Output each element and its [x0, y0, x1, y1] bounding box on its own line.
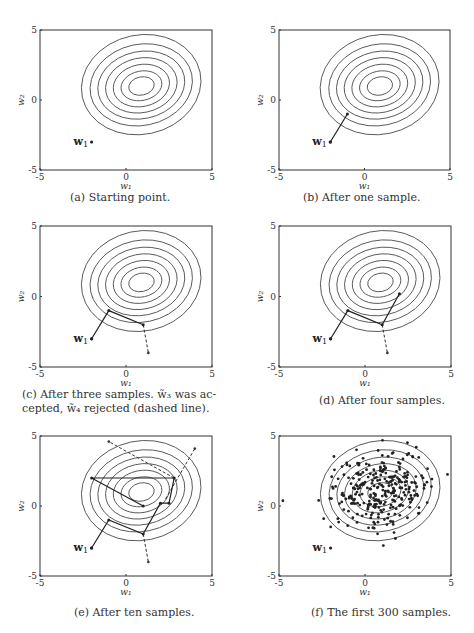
contour-lines — [311, 430, 449, 552]
y-axis-label: w₂ — [16, 500, 26, 512]
y-tick-label: 0 — [31, 95, 37, 105]
plot-f: -505-505w₁w₂w1 — [237, 420, 474, 600]
y-axis-label: w₂ — [255, 500, 265, 512]
x-axis-label: w₁ — [120, 378, 131, 388]
caption-e: (e) After ten samples. — [74, 606, 194, 620]
y-tick-label: 0 — [270, 501, 276, 511]
axes-box — [40, 226, 212, 367]
axes-box — [279, 30, 450, 170]
caption-d: (d) After four samples. — [319, 394, 445, 408]
plot-a: -505-505w₁w₂w1 — [0, 0, 237, 190]
panel-a: -505-505w₁w₂w1 (a) Starting point. — [0, 0, 237, 210]
y-axis-label: w₂ — [255, 290, 265, 302]
plot-b: -505-505w₁w₂w1 — [237, 0, 474, 190]
plot-d: -505-505w₁w₂w1 — [237, 210, 474, 390]
y-tick-label: 0 — [270, 95, 276, 105]
y-tick-label: 5 — [31, 25, 37, 35]
x-axis-label: w₁ — [359, 378, 370, 388]
start-point-label: w1 — [312, 332, 328, 346]
y-tick-label: 5 — [270, 431, 276, 441]
start-point-label: w1 — [312, 541, 328, 555]
plot-c: -505-505w₁w₂w1 — [0, 210, 237, 390]
contour-lines — [72, 24, 210, 146]
y-tick-label: 5 — [270, 25, 276, 35]
y-tick-label: -5 — [267, 165, 276, 175]
caption-c-line2: cepted, w̃₄ rejected (dashed line). — [22, 402, 209, 416]
caption-f: (f) The first 300 samples. — [311, 606, 451, 620]
y-tick-label: -5 — [267, 362, 276, 372]
start-point-label: w1 — [73, 332, 89, 346]
start-point-label: w1 — [73, 135, 89, 149]
contour-lines — [311, 24, 449, 146]
start-point-label: w1 — [311, 135, 327, 149]
axes-box — [279, 436, 451, 576]
rejected-step — [143, 325, 148, 353]
y-tick-label: -5 — [267, 571, 276, 581]
plot-e: -505-505w₁w₂w1 — [0, 420, 237, 600]
y-tick-label: 5 — [31, 221, 37, 231]
x-axis-label: w₁ — [359, 587, 370, 597]
accepted-path — [92, 311, 144, 339]
panel-e: -505-505w₁w₂w1 (e) After ten samples. — [0, 420, 237, 630]
y-axis-label: w₂ — [16, 290, 26, 302]
x-axis-label: w₁ — [120, 181, 131, 190]
sample-points — [281, 439, 448, 547]
start-point-marker — [90, 140, 93, 143]
axes-box — [279, 226, 451, 367]
rejected-step — [166, 449, 195, 499]
y-tick-label: -5 — [28, 571, 37, 581]
y-tick-label: -5 — [28, 362, 37, 372]
y-tick-label: 5 — [31, 431, 37, 441]
rejected-step — [382, 325, 387, 353]
x-tick-label: 5 — [209, 172, 215, 182]
y-tick-label: -5 — [28, 165, 37, 175]
x-axis-label: w₁ — [120, 587, 131, 597]
axes-box — [40, 436, 212, 576]
panel-d: -505-505w₁w₂w1 (d) After four samples. — [237, 210, 474, 420]
y-tick-label: 0 — [270, 292, 276, 302]
y-tick-label: 0 — [31, 292, 37, 302]
y-tick-label: 5 — [270, 221, 276, 231]
x-tick-label: 5 — [209, 369, 215, 379]
rejected-step — [109, 442, 174, 478]
caption-b: (b) After one sample. — [303, 191, 421, 205]
caption-a: (a) Starting point. — [70, 191, 170, 205]
x-tick-label: 5 — [209, 578, 215, 588]
start-point-label: w1 — [73, 541, 89, 555]
x-axis-label: w₁ — [359, 181, 370, 190]
panel-c: -505-505w₁w₂w1 (c) After three samples. … — [0, 210, 237, 420]
y-tick-label: 0 — [31, 501, 37, 511]
y-axis-label: w₂ — [255, 94, 265, 106]
x-tick-label: 5 — [448, 578, 454, 588]
panel-f: -505-505w₁w₂w1 (f) The first 300 samples… — [237, 420, 474, 630]
accepted-path — [331, 294, 400, 339]
axes-box — [40, 30, 212, 170]
x-tick-label: 5 — [448, 369, 454, 379]
caption-c-line1: (c) After three samples. w̃₃ was ac- — [22, 388, 216, 402]
rejected-step — [143, 534, 148, 562]
start-point-marker — [329, 546, 332, 549]
x-tick-label: 5 — [447, 172, 453, 182]
y-axis-label: w₂ — [16, 94, 26, 106]
panel-b: -505-505w₁w₂w1 (b) After one sample. — [237, 0, 474, 210]
